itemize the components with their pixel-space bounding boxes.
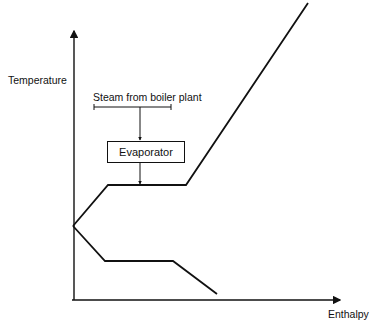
heating-curve bbox=[73, 3, 308, 226]
steam-bracket bbox=[94, 104, 171, 110]
steam-source-label: Steam from boiler plant bbox=[93, 91, 202, 103]
diagram-canvas bbox=[0, 0, 372, 327]
y-axis-label: Temperature bbox=[8, 74, 67, 86]
evaporator-box: Evaporator bbox=[107, 141, 185, 163]
cooling-curve bbox=[73, 226, 217, 294]
x-axis-label: Enthalpy bbox=[328, 308, 369, 320]
